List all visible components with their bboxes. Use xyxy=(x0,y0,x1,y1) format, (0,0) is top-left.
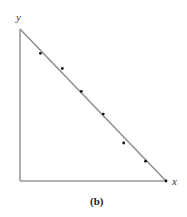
fit-line xyxy=(20,29,166,181)
data-point xyxy=(80,90,83,93)
data-point xyxy=(39,52,42,55)
data-point xyxy=(61,67,64,70)
data-point xyxy=(102,113,105,116)
x-axis-label: x xyxy=(172,176,177,187)
data-point xyxy=(165,180,168,183)
data-point xyxy=(122,142,125,145)
data-point xyxy=(144,160,147,163)
figure-caption: (b) xyxy=(90,196,103,207)
triangle-diagram xyxy=(0,0,187,217)
y-axis-label: y xyxy=(16,12,21,23)
